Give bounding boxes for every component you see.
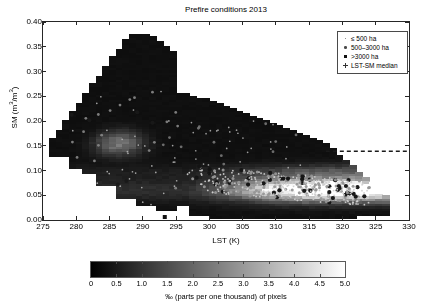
plus-marker-icon <box>341 61 350 70</box>
x-axis-tick-top <box>342 21 343 25</box>
y-axis-tick-label: 0.40 <box>8 18 42 26</box>
x-axis-tick-top <box>309 21 310 25</box>
x-axis-tick-top <box>275 21 276 25</box>
colorbar-tick-label: 5.0 <box>330 280 360 288</box>
y-axis-title-suffix: ) <box>10 87 19 90</box>
x-axis-tick <box>242 216 243 220</box>
y-axis-tick-right <box>405 121 409 122</box>
y-axis-sup-2: 3 <box>8 89 14 92</box>
small-dot-icon <box>341 34 350 43</box>
colorbar-tick <box>218 261 219 264</box>
y-axis-tick-label: 0.05 <box>8 191 42 199</box>
colorbar-tick <box>167 274 168 277</box>
x-axis-tick-top <box>242 21 243 25</box>
colorbar-tick <box>320 261 321 264</box>
colorbar-tick <box>167 261 168 264</box>
colorbar-tick <box>294 261 295 264</box>
legend-item-2[interactable]: >3000 ha <box>341 52 404 61</box>
medium-dot-icon <box>341 43 350 52</box>
legend-label: LST-SM median <box>350 61 398 70</box>
colorbar-tick <box>320 274 321 277</box>
legend[interactable]: ≤ 500 ha 500–3000 ha >3000 ha LST-SM med… <box>337 31 408 74</box>
x-axis-tick-top <box>375 21 376 25</box>
x-axis-tick <box>309 216 310 220</box>
legend-item-0[interactable]: ≤ 500 ha <box>341 34 404 43</box>
x-axis-tick-top <box>43 21 44 25</box>
y-axis-tick <box>42 145 46 146</box>
x-axis-tick-top <box>176 21 177 25</box>
y-axis-tick-label: 0.35 <box>8 43 42 51</box>
legend-item-3[interactable]: LST-SM median <box>341 61 404 70</box>
x-axis-tick <box>209 216 210 220</box>
legend-label: 500–3000 ha <box>350 43 389 52</box>
colorbar-tick <box>269 261 270 264</box>
y-axis-title-text: SM (m <box>10 105 19 129</box>
colorbar-tick <box>142 274 143 277</box>
colorbar-tick <box>116 261 117 264</box>
x-axis-tick <box>375 216 376 220</box>
figure-canvas: Prefire conditions 2013 0.000.050.100.15… <box>0 0 421 307</box>
legend-label: ≤ 500 ha <box>350 34 376 43</box>
y-axis-tick <box>42 46 46 47</box>
colorbar-tick <box>193 261 194 264</box>
x-axis-tick <box>142 216 143 220</box>
x-axis-tick <box>109 216 110 220</box>
colorbar-tick <box>193 274 194 277</box>
y-axis-tick-right <box>405 195 409 196</box>
colorbar-title: ‰ (parts per one thousand) of pixels <box>42 292 410 301</box>
chart-title: Prefire conditions 2013 <box>42 5 410 15</box>
x-axis-tick <box>176 216 177 220</box>
legend-label: >3000 ha <box>350 52 378 61</box>
y-axis-tick <box>42 121 46 122</box>
y-axis-sup-1: 3 <box>8 102 14 105</box>
colorbar-tick <box>116 274 117 277</box>
x-axis-tick <box>43 216 44 220</box>
colorbar-tick <box>269 274 270 277</box>
y-axis-tick <box>42 170 46 171</box>
y-axis-title-mid: /m <box>10 93 19 102</box>
x-axis-tick-top <box>409 21 410 25</box>
y-axis-tick-label: 0.10 <box>8 167 42 175</box>
x-axis-tick-top <box>142 21 143 25</box>
x-axis-tick-top <box>209 21 210 25</box>
x-axis-tick-top <box>109 21 110 25</box>
colorbar-tick <box>243 261 244 264</box>
large-square-icon <box>341 52 350 61</box>
x-axis-title: LST (K) <box>42 236 410 245</box>
x-axis-tick <box>76 216 77 220</box>
y-axis-tick <box>42 96 46 97</box>
y-axis-tick <box>42 195 46 196</box>
y-axis-tick-right <box>405 96 409 97</box>
colorbar <box>90 261 346 278</box>
colorbar-tick <box>294 274 295 277</box>
y-axis-tick <box>42 71 46 72</box>
colorbar-tick <box>142 261 143 264</box>
legend-item-1[interactable]: 500–3000 ha <box>341 43 404 52</box>
x-axis-tick-label: 330 <box>389 223 421 231</box>
colorbar-tick <box>243 274 244 277</box>
x-axis-tick <box>409 216 410 220</box>
x-axis-tick <box>342 216 343 220</box>
y-axis-tick-right <box>405 170 409 171</box>
colorbar-tick <box>218 274 219 277</box>
y-axis-tick-right <box>405 145 409 146</box>
x-axis-tick <box>275 216 276 220</box>
y-axis-title: SM (m3/m3) <box>10 58 19 158</box>
x-axis-tick-top <box>76 21 77 25</box>
